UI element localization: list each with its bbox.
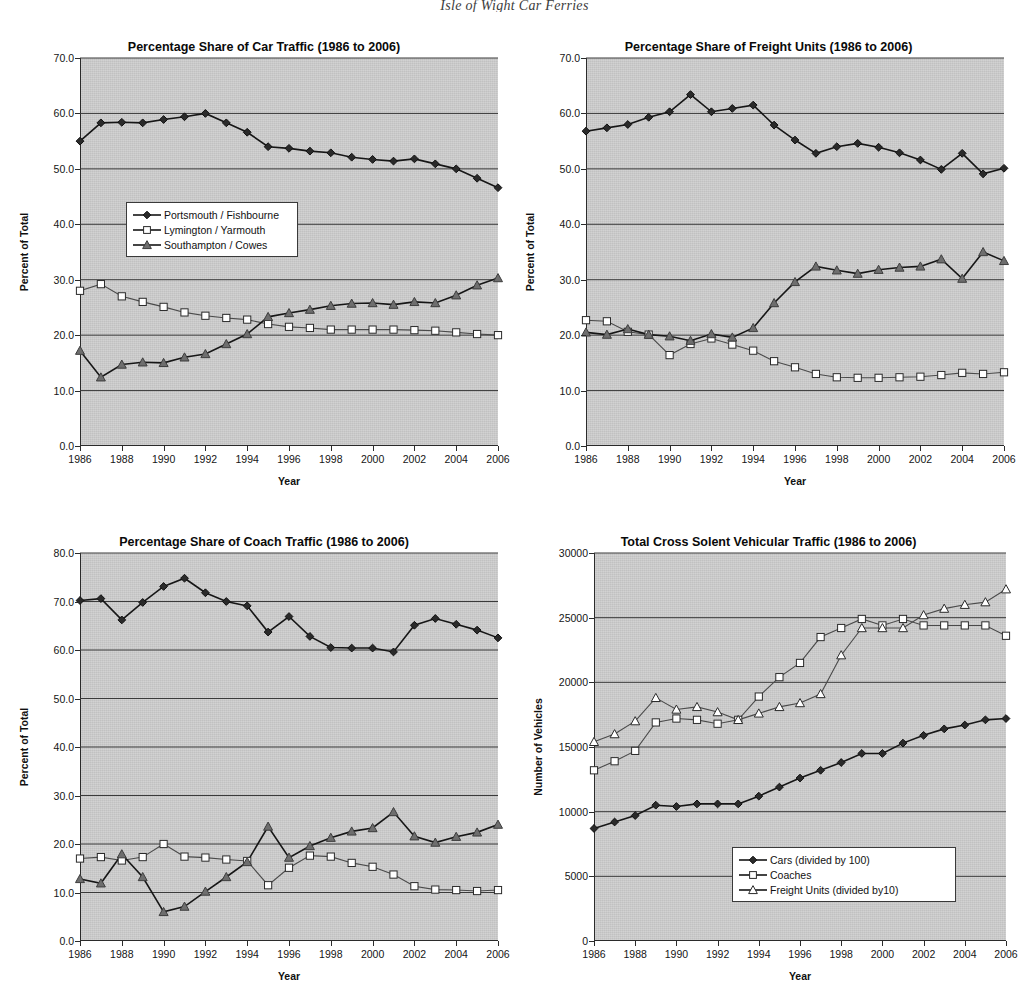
x-axis-tick-label: 1994 — [236, 948, 259, 960]
x-axis-tick-label: 1988 — [110, 948, 133, 960]
legend-item[interactable]: Southampton / Cowes — [132, 237, 290, 252]
x-axis-tick-mark — [676, 941, 677, 946]
x-axis-tick-label: 1986 — [582, 948, 605, 960]
y-axis-tick-mark — [75, 335, 80, 336]
y-axis-tick-label: 20.0 — [32, 329, 74, 341]
x-axis-tick-label: 2004 — [445, 453, 468, 465]
x-axis-tick-label: 1992 — [194, 453, 217, 465]
x-axis-tick-label: 1988 — [624, 948, 647, 960]
y-axis-tick-mark — [581, 113, 586, 114]
x-axis-tick-mark — [122, 446, 123, 451]
x-axis-tick-label: 1990 — [152, 948, 175, 960]
y-axis-tick-label: 40.0 — [538, 218, 580, 230]
y-axis-tick-label: 70.0 — [32, 52, 74, 64]
x-axis-tick-mark — [594, 941, 595, 946]
x-axis-tick-mark — [635, 941, 636, 946]
x-axis-tick-label: 2004 — [445, 948, 468, 960]
y-axis-tick-label: 60.0 — [32, 644, 74, 656]
x-axis-tick-mark — [920, 446, 921, 451]
x-axis-tick-label: 1992 — [700, 453, 723, 465]
y-axis-tick-label: 25000 — [546, 612, 588, 624]
x-axis-tick-mark — [1004, 446, 1005, 451]
x-axis-tick-mark — [924, 941, 925, 946]
y-axis-tick-label: 40.0 — [32, 218, 74, 230]
legend-item[interactable]: Portsmouth / Fishbourne — [132, 207, 290, 222]
y-axis-tick-label: 30.0 — [32, 274, 74, 286]
x-axis-tick-label: 2002 — [909, 453, 932, 465]
y-axis-tick-label: 60.0 — [538, 107, 580, 119]
diamond-marker-icon — [738, 854, 768, 866]
x-axis-tick-mark — [882, 941, 883, 946]
square-marker-icon — [738, 869, 768, 881]
legend-item[interactable]: Coaches — [738, 867, 948, 882]
legend-item-label: Cars (divided by 100) — [770, 854, 870, 866]
y-axis-tick-label: 0.0 — [32, 440, 74, 452]
x-axis-tick-label: 2006 — [994, 948, 1017, 960]
y-axis-tick-label: 50.0 — [32, 693, 74, 705]
y-axis-label: Percent of Total — [524, 213, 536, 292]
x-axis-tick-mark — [1006, 941, 1007, 946]
y-axis-tick-mark — [75, 58, 80, 59]
y-axis-tick-label: 70.0 — [538, 52, 580, 64]
chart-freight-units: Percentage Share of Freight Units (1986 … — [516, 40, 1021, 490]
x-axis-tick-label: 1998 — [319, 453, 342, 465]
y-axis-tick-label: 40.0 — [32, 741, 74, 753]
y-axis-tick-label: 5000 — [546, 870, 588, 882]
x-axis-tick-mark — [247, 941, 248, 946]
chart-legend[interactable]: Portsmouth / Fishbourne Lymington / Yarm… — [126, 202, 298, 257]
square-marker-icon — [132, 224, 162, 236]
legend-item[interactable]: Cars (divided by 100) — [738, 852, 948, 867]
y-axis-tick-mark — [75, 224, 80, 225]
x-axis-tick-label: 1994 — [747, 948, 770, 960]
y-axis-tick-label: 30000 — [546, 547, 588, 559]
x-axis-label: Year — [80, 475, 498, 487]
legend-item-label: Portsmouth / Fishbourne — [164, 209, 279, 221]
x-axis-tick-label: 1998 — [830, 948, 853, 960]
x-axis-tick-mark — [373, 941, 374, 946]
chart-legend[interactable]: Cars (divided by 100) Coaches Freight Un… — [732, 847, 956, 902]
legend-item[interactable]: Freight Units (divided by10) — [738, 882, 948, 897]
legend-item-label: Lymington / Yarmouth — [164, 224, 265, 236]
x-axis-tick-mark — [122, 941, 123, 946]
x-axis-tick-mark — [164, 941, 165, 946]
y-axis-label: Percent of Total — [18, 708, 30, 787]
x-axis-tick-label: 1990 — [658, 453, 681, 465]
y-axis-tick-mark — [589, 876, 594, 877]
y-axis-tick-mark — [589, 747, 594, 748]
y-axis-tick-label: 0.0 — [538, 440, 580, 452]
y-axis-tick-mark — [75, 553, 80, 554]
x-axis-tick-label: 1996 — [277, 453, 300, 465]
y-axis-tick-mark — [75, 280, 80, 281]
x-axis-tick-label: 2006 — [486, 453, 509, 465]
y-axis-label: Number of Vehicles — [532, 698, 544, 795]
x-axis-tick-label: 2002 — [403, 453, 426, 465]
x-axis-tick-mark — [289, 941, 290, 946]
y-axis-tick-mark — [75, 391, 80, 392]
x-axis-tick-mark — [670, 446, 671, 451]
y-axis-tick-label: 15000 — [546, 741, 588, 753]
x-axis-tick-mark — [373, 446, 374, 451]
x-axis-tick-label: 2000 — [361, 948, 384, 960]
y-axis-tick-mark — [75, 893, 80, 894]
y-axis-tick-mark — [75, 650, 80, 651]
legend-item-label: Southampton / Cowes — [164, 239, 267, 251]
x-axis-label: Year — [586, 475, 1004, 487]
x-axis-tick-label: 2000 — [871, 948, 894, 960]
legend-item[interactable]: Lymington / Yarmouth — [132, 222, 290, 237]
x-axis-tick-mark — [837, 446, 838, 451]
x-axis-tick-mark — [498, 446, 499, 451]
x-axis-tick-label: 2002 — [912, 948, 935, 960]
page-heading: Isle of Wight Car Ferries — [0, 0, 1029, 12]
y-axis-tick-label: 70.0 — [32, 596, 74, 608]
x-axis-label: Year — [594, 970, 1006, 982]
x-axis-tick-mark — [80, 941, 81, 946]
y-axis-tick-label: 50.0 — [32, 163, 74, 175]
x-axis-tick-mark — [628, 446, 629, 451]
x-axis-tick-mark — [414, 941, 415, 946]
series-layer — [14, 535, 514, 990]
x-axis-tick-label: 1998 — [825, 453, 848, 465]
y-axis-tick-label: 20000 — [546, 676, 588, 688]
x-axis-tick-label: 2006 — [992, 453, 1015, 465]
x-axis-tick-label: 2000 — [361, 453, 384, 465]
y-axis-tick-label: 20.0 — [538, 329, 580, 341]
